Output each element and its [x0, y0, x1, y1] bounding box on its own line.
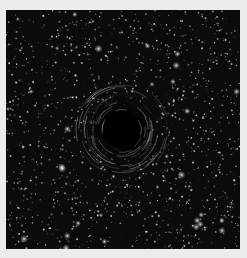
starfield-canvas [6, 10, 240, 249]
starfield-image [6, 10, 240, 249]
black-hole-core [106, 114, 138, 146]
